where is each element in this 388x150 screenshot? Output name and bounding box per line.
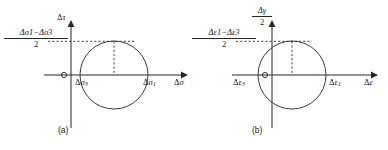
panel-b-x-axis-label: Δε: [364, 78, 373, 87]
panel-b-y-axis-label: Δγ 2: [252, 6, 272, 27]
panel-b-left-point-label: Δε3: [233, 78, 245, 88]
panel-b-radius-label: Δε1−Δε3 2: [192, 28, 256, 49]
panel-b-caption: (b): [252, 125, 262, 135]
panel-b-radius-numerator: Δε1−Δε3: [192, 28, 256, 39]
panel-a-caption: (a): [58, 125, 68, 135]
panel-a-radius-label: Δσ1−Δσ3 2: [4, 28, 68, 49]
panel-a-left-point-label: Δσ3: [75, 78, 88, 88]
mohr-circle-figure: Δσ1−Δσ3 2 Δτ Δσ O Δσ3 Δσ1 (a) Δε1−Δε3 2 …: [0, 0, 388, 150]
panel-a-radius-denominator: 2: [4, 39, 68, 49]
panel-b-y-axis-denominator: 2: [252, 17, 272, 27]
panel-b-right-point-label: Δε1: [329, 78, 341, 88]
panel-b-radius-denominator: 2: [192, 39, 256, 49]
panel-a-y-axis-label: Δτ: [57, 13, 66, 22]
panel-a-right-point-label: Δσ1: [143, 78, 156, 88]
panel-b-y-axis-numerator: Δγ: [252, 6, 272, 17]
panel-a-radius-numerator: Δσ1−Δσ3: [4, 28, 68, 39]
panel-a-y-axis-arrowhead: [68, 20, 75, 27]
panel-a-x-axis-label: Δσ: [174, 78, 184, 87]
